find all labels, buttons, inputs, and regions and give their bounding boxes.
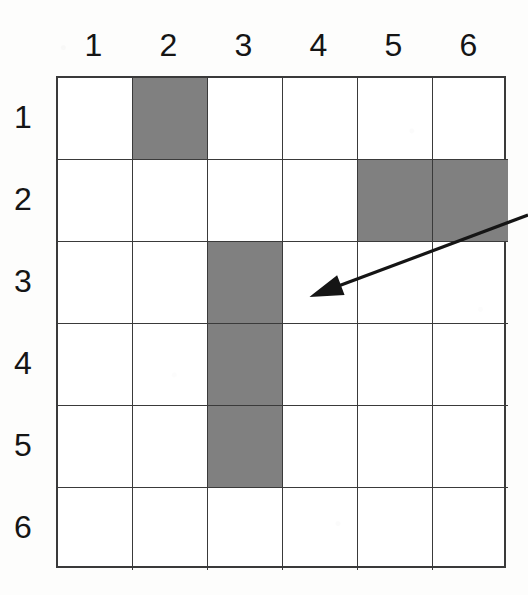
grid-cell[interactable] <box>208 488 283 570</box>
grid-cell[interactable] <box>133 324 208 406</box>
column-header-6: 6 <box>431 26 506 64</box>
grid-cell[interactable] <box>283 242 358 324</box>
grid-cell[interactable] <box>433 78 508 160</box>
grid-cell[interactable] <box>133 488 208 570</box>
grid-cell[interactable] <box>133 78 208 160</box>
grid-cell[interactable] <box>133 160 208 242</box>
row-header-6: 6 <box>0 486 46 568</box>
grid-cell[interactable] <box>433 242 508 324</box>
grid-cell[interactable] <box>433 406 508 488</box>
row-header-5: 5 <box>0 404 46 486</box>
grid-cell[interactable] <box>283 406 358 488</box>
grid-cell[interactable] <box>433 324 508 406</box>
grid-cell[interactable] <box>208 78 283 160</box>
grid-cell[interactable] <box>358 160 433 242</box>
column-header-3: 3 <box>206 26 281 64</box>
grid-cell[interactable] <box>358 488 433 570</box>
column-header-2: 2 <box>131 26 206 64</box>
grid-cell[interactable] <box>58 324 133 406</box>
cell-grid <box>56 76 506 568</box>
grid-cell[interactable] <box>58 406 133 488</box>
grid-cell[interactable] <box>358 78 433 160</box>
grid-cell[interactable] <box>133 242 208 324</box>
column-header-5: 5 <box>356 26 431 64</box>
grid-cell[interactable] <box>208 160 283 242</box>
row-header-4: 4 <box>0 322 46 404</box>
grid-cell[interactable] <box>133 406 208 488</box>
row-header-2: 2 <box>0 158 46 240</box>
row-header-1: 1 <box>0 76 46 158</box>
grid-cell[interactable] <box>208 406 283 488</box>
grid-cell[interactable] <box>283 324 358 406</box>
grid-cell[interactable] <box>433 160 508 242</box>
grid-cell[interactable] <box>283 160 358 242</box>
grid-cell[interactable] <box>208 242 283 324</box>
grid-cell[interactable] <box>58 242 133 324</box>
grid-cell[interactable] <box>283 78 358 160</box>
column-header-4: 4 <box>281 26 356 64</box>
grid-cell[interactable] <box>58 488 133 570</box>
row-header-3: 3 <box>0 240 46 322</box>
grid-cell[interactable] <box>283 488 358 570</box>
grid-cell[interactable] <box>58 160 133 242</box>
grid-cell[interactable] <box>358 324 433 406</box>
grid-cell[interactable] <box>433 488 508 570</box>
grid-cell[interactable] <box>208 324 283 406</box>
column-header-1: 1 <box>56 26 131 64</box>
grid-figure: 1 2 3 4 5 6 1 2 3 4 5 6 <box>0 0 528 595</box>
grid-cell[interactable] <box>58 78 133 160</box>
grid-cell[interactable] <box>358 242 433 324</box>
grid-cell[interactable] <box>358 406 433 488</box>
